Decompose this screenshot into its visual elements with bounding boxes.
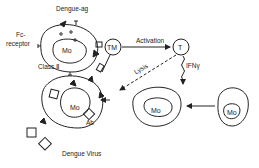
- label-dengue-virus: Dengue Virus: [62, 151, 101, 158]
- macrophage-infected: [40, 76, 110, 128]
- label-ifn: IFNγ: [186, 63, 200, 70]
- diagram-canvas: [0, 0, 259, 168]
- dengue-virus-particle: [27, 128, 36, 137]
- macrophage-resting: [218, 88, 248, 126]
- label-tm: TM: [107, 44, 117, 51]
- label-mo-activated: Mo: [151, 107, 161, 114]
- dengue-virus-particle: [39, 137, 52, 150]
- label-activation: Activation: [136, 38, 164, 45]
- label-t: T: [178, 44, 182, 51]
- label-class-ii: Class Ⅱ: [38, 64, 59, 71]
- ifn-gamma-arrow: [182, 56, 185, 84]
- label-mo-resting: Mo: [227, 109, 237, 116]
- dengue-immune-diagram: Dengue-ag Fc- receptor Class Ⅱ Mo TM Act…: [0, 0, 259, 168]
- label-dengue-ag: Dengue-ag: [56, 6, 88, 13]
- lysis-arrow: [120, 55, 176, 90]
- tm-to-infected-connector: [102, 55, 110, 72]
- label-ab: Ab: [86, 120, 94, 127]
- label-fc-2: receptor: [6, 41, 30, 48]
- label-mo-infected: Mo: [70, 104, 80, 111]
- label-fc-1: Fc-: [16, 32, 25, 39]
- label-mo-top: Mo: [62, 47, 72, 54]
